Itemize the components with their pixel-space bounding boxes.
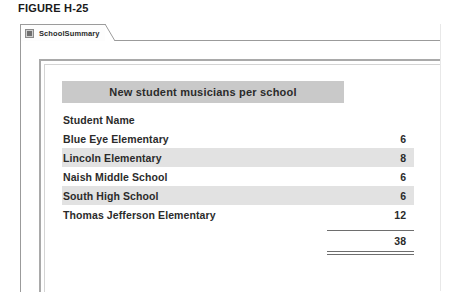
tab-schoolsummary[interactable]: SchoolSummary: [20, 24, 106, 41]
table-row[interactable]: Blue Eye Elementary 6: [62, 129, 414, 148]
column-header-value: [327, 111, 414, 129]
row-name: Naish Middle School: [62, 167, 327, 186]
total-row: 38: [62, 232, 414, 249]
total-double-rule: [327, 249, 414, 256]
report-frame: New student musicians per school Student…: [39, 59, 440, 292]
window-right-edge: [440, 24, 441, 291]
row-value: 6: [327, 167, 414, 186]
application-window: SchoolSummary New student musicians per …: [20, 24, 440, 292]
report-frame-inner: New student musicians per school Student…: [44, 64, 440, 292]
row-name: Thomas Jefferson Elementary: [62, 205, 327, 224]
total-rule-row: [62, 224, 414, 232]
tab-label: SchoolSummary: [39, 29, 99, 38]
table-header-row: Student Name: [62, 111, 414, 129]
table-row[interactable]: Thomas Jefferson Elementary 12: [62, 205, 414, 224]
column-header-name: Student Name: [62, 111, 327, 129]
report-table: Student Name Blue Eye Elementary 6 Linco…: [62, 111, 414, 256]
table-grid-icon: [25, 29, 34, 38]
total-rule-spacer: [62, 224, 327, 232]
total-value: 38: [327, 232, 414, 249]
row-value: 8: [327, 148, 414, 167]
report-title: New student musicians per school: [109, 86, 296, 98]
tab-slant-edge: [105, 24, 115, 41]
report-body: New student musicians per school Student…: [62, 81, 417, 256]
total-underline-row: [62, 249, 414, 256]
tab-strip: SchoolSummary: [20, 24, 440, 41]
total-underline-spacer: [62, 249, 327, 256]
row-value: 12: [327, 205, 414, 224]
row-name: South High School: [62, 186, 327, 205]
row-value: 6: [327, 186, 414, 205]
table-row[interactable]: Naish Middle School 6: [62, 167, 414, 186]
total-rule: [327, 224, 414, 232]
row-name: Blue Eye Elementary: [62, 129, 327, 148]
table-row[interactable]: South High School 6: [62, 186, 414, 205]
row-value: 6: [327, 129, 414, 148]
table-row[interactable]: Lincoln Elementary 8: [62, 148, 414, 167]
report-title-band: New student musicians per school: [62, 81, 344, 103]
figure-caption: FIGURE H-25: [18, 2, 89, 14]
row-name: Lincoln Elementary: [62, 148, 327, 167]
total-label: [62, 232, 327, 249]
client-area: New student musicians per school Student…: [20, 41, 440, 292]
